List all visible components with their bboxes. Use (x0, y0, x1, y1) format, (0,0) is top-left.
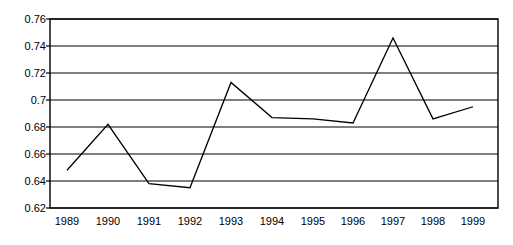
line-chart: 0.760.740.720.70.680.660.640.62 19891990… (0, 0, 513, 245)
y-axis-tick-label: 0.68 (25, 121, 46, 133)
x-axis-tick-label: 1996 (341, 215, 365, 227)
x-axis-tick-label: 1991 (137, 215, 161, 227)
x-axis-tick-label: 1999 (461, 215, 485, 227)
x-axis-tick-label: 1990 (96, 215, 120, 227)
y-axis-tick-label: 0.66 (25, 148, 46, 160)
y-axis-tick-label: 0.62 (25, 202, 46, 214)
x-axis-tick-label: 1989 (55, 215, 79, 227)
x-axis-tick-label: 1993 (219, 215, 243, 227)
chart-canvas: 0.760.740.720.70.680.660.640.62 19891990… (0, 0, 513, 245)
y-axis-tick-label: 0.74 (25, 40, 46, 52)
y-axis-tick-label: 0.64 (25, 175, 46, 187)
x-axis-tick-labels: 1989199019911992199319941995199619971998… (55, 215, 485, 227)
x-axis-tick-label: 1994 (260, 215, 284, 227)
x-axis-tick-label: 1992 (178, 215, 202, 227)
x-axis-tick-label: 1997 (381, 215, 405, 227)
y-axis-tick-label: 0.7 (31, 94, 46, 106)
y-axis-tick-label: 0.72 (25, 67, 46, 79)
y-axis-tick-label: 0.76 (25, 13, 46, 25)
x-axis-tick-label: 1995 (301, 215, 325, 227)
x-axis-tick-label: 1998 (421, 215, 445, 227)
